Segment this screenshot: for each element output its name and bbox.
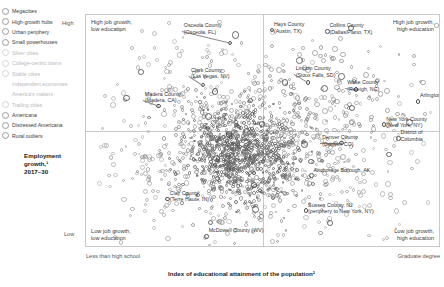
data-point bbox=[290, 167, 294, 171]
data-point bbox=[273, 152, 275, 154]
data-point bbox=[224, 172, 227, 175]
data-point bbox=[248, 98, 253, 103]
data-point-annotation: New York County(New York, NY) bbox=[386, 116, 427, 129]
data-point bbox=[305, 117, 309, 121]
data-point bbox=[314, 102, 320, 108]
legend-item[interactable]: Distressed Americana bbox=[2, 120, 80, 130]
data-point bbox=[295, 158, 297, 160]
data-point bbox=[255, 146, 258, 149]
data-point bbox=[257, 154, 259, 156]
data-point bbox=[270, 79, 273, 82]
data-point bbox=[148, 179, 151, 182]
data-point bbox=[250, 202, 253, 205]
data-point bbox=[245, 180, 249, 184]
data-point bbox=[338, 36, 344, 42]
data-point bbox=[277, 164, 281, 168]
legend-item[interactable]: Rural outliers bbox=[2, 131, 80, 141]
legend-item[interactable]: College-centric towns bbox=[2, 58, 80, 68]
data-point bbox=[385, 236, 389, 240]
legend-item[interactable]: Megacities bbox=[2, 6, 80, 16]
data-point bbox=[222, 49, 228, 55]
data-point bbox=[239, 167, 242, 170]
data-point bbox=[281, 126, 284, 129]
data-point bbox=[236, 177, 240, 181]
data-point bbox=[278, 157, 281, 160]
data-point bbox=[234, 123, 238, 127]
data-point bbox=[249, 89, 252, 92]
data-point bbox=[226, 145, 229, 148]
data-point bbox=[291, 152, 295, 156]
data-point bbox=[221, 142, 223, 144]
annotation-line-1: McDowell County (WV) bbox=[209, 227, 264, 233]
data-point bbox=[268, 172, 271, 175]
data-point bbox=[211, 120, 215, 124]
legend-item[interactable]: Trailing cities bbox=[2, 100, 80, 110]
data-point bbox=[277, 154, 281, 158]
data-point bbox=[290, 181, 295, 186]
data-point bbox=[215, 137, 218, 140]
data-point bbox=[217, 135, 220, 138]
data-point bbox=[159, 157, 164, 162]
data-point bbox=[327, 216, 331, 220]
data-point bbox=[208, 141, 211, 144]
data-point bbox=[252, 131, 256, 135]
data-point bbox=[314, 174, 317, 177]
data-point bbox=[173, 109, 177, 113]
data-point bbox=[167, 181, 171, 185]
data-point bbox=[265, 170, 267, 172]
data-point bbox=[410, 167, 413, 170]
data-point bbox=[240, 179, 244, 183]
data-point bbox=[363, 72, 369, 78]
data-point bbox=[254, 141, 258, 145]
data-point bbox=[248, 157, 252, 161]
data-point bbox=[233, 147, 237, 151]
data-point bbox=[237, 151, 241, 155]
data-point bbox=[343, 124, 346, 127]
data-point bbox=[247, 192, 250, 195]
data-point bbox=[317, 220, 321, 224]
data-point bbox=[242, 145, 245, 148]
data-point bbox=[224, 150, 227, 153]
data-point bbox=[281, 161, 285, 165]
data-point bbox=[268, 175, 273, 180]
data-point bbox=[248, 179, 251, 182]
data-point bbox=[207, 132, 210, 135]
data-point bbox=[224, 133, 229, 138]
legend-item[interactable]: Stable cities bbox=[2, 68, 80, 78]
data-point bbox=[110, 102, 115, 107]
data-point bbox=[244, 200, 247, 203]
legend-item[interactable]: Silver cities bbox=[2, 48, 80, 58]
data-point bbox=[233, 159, 236, 162]
legend-item[interactable]: Urban periphery bbox=[2, 27, 80, 37]
data-point bbox=[242, 101, 246, 105]
legend-item[interactable]: Independent economies bbox=[2, 79, 80, 89]
annotation-line-1: New York County bbox=[386, 116, 427, 122]
data-point bbox=[173, 104, 176, 107]
data-point bbox=[200, 143, 203, 146]
data-point bbox=[226, 155, 230, 159]
data-point bbox=[213, 167, 216, 170]
data-point bbox=[216, 167, 219, 170]
data-point bbox=[285, 118, 289, 122]
data-point bbox=[385, 181, 390, 186]
legend-item[interactable]: Americana bbox=[2, 110, 80, 120]
data-point bbox=[256, 122, 259, 125]
data-point bbox=[206, 133, 208, 135]
annotation-line-2: (Dallas/Plano, TX) bbox=[329, 29, 372, 35]
data-point bbox=[231, 103, 233, 105]
data-point bbox=[232, 162, 235, 165]
data-point bbox=[280, 136, 285, 141]
legend-item[interactable]: Small powerhouses bbox=[2, 37, 80, 47]
data-point bbox=[246, 187, 250, 191]
data-point bbox=[242, 136, 246, 140]
quadrant-bl-line2: low education bbox=[91, 235, 131, 242]
legend-item[interactable]: America's makers bbox=[2, 89, 80, 99]
data-point bbox=[335, 156, 340, 161]
data-point bbox=[303, 141, 308, 146]
data-point bbox=[237, 125, 240, 128]
data-point bbox=[287, 153, 290, 156]
data-point bbox=[252, 154, 255, 157]
data-point bbox=[141, 135, 145, 139]
data-point bbox=[266, 139, 269, 142]
data-point bbox=[168, 60, 173, 65]
